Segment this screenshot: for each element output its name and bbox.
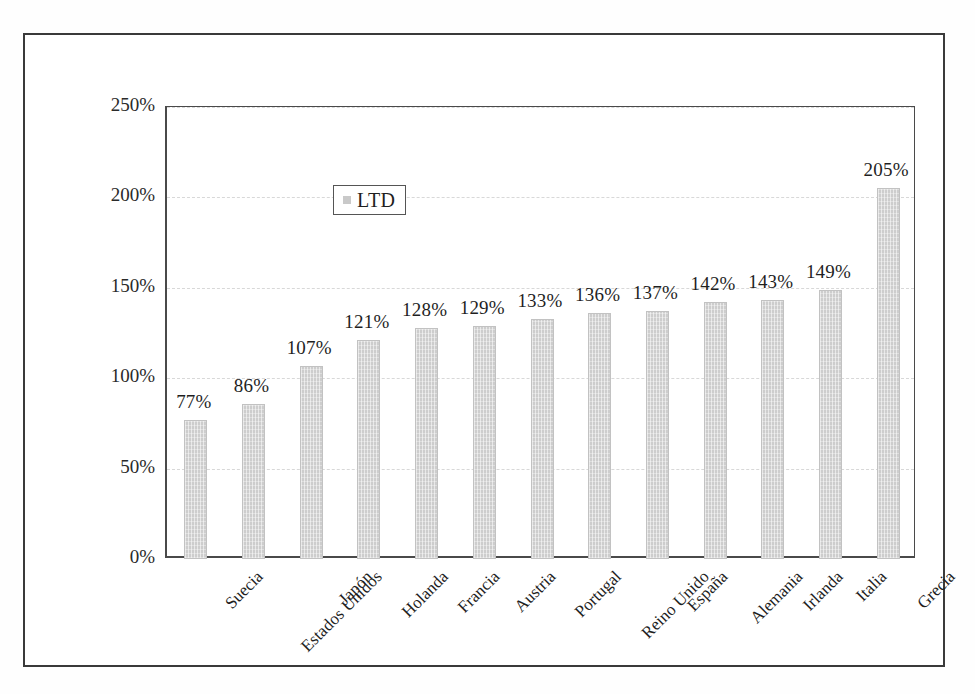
x-axis-category-label: Italia — [853, 567, 892, 606]
bar — [646, 311, 669, 559]
y-axis-tick-label: 200% — [37, 184, 155, 206]
x-axis-category-label: Portugal — [571, 567, 626, 622]
x-axis-category-label: Alemania — [746, 567, 807, 628]
bar — [184, 420, 207, 559]
gridline — [167, 197, 914, 198]
bar-value-label: 107% — [266, 337, 352, 359]
legend-label-ltd: LTD — [357, 189, 396, 212]
x-axis-category-label: Suecia — [221, 567, 267, 613]
bar — [473, 326, 496, 559]
bar — [819, 290, 842, 559]
y-axis-tick-label: 100% — [37, 365, 155, 387]
bar — [242, 404, 265, 559]
chart-legend[interactable]: LTD — [333, 185, 406, 215]
plot-area: LTD — [165, 106, 915, 558]
x-axis-category-label: Irlanda — [799, 567, 847, 615]
legend-swatch-ltd — [343, 196, 351, 204]
y-axis-tick-label: 0% — [37, 546, 155, 568]
bar — [704, 302, 727, 559]
bar-value-label: 149% — [785, 261, 871, 283]
bar — [357, 340, 380, 559]
gridline — [167, 107, 914, 108]
chart-page: 0%50%100%150%200%250% LTD 77%86%107%121%… — [0, 0, 975, 694]
bar — [300, 366, 323, 559]
x-axis-category-label: Grecia — [913, 567, 959, 613]
y-axis-tick-label: 250% — [37, 94, 155, 116]
bar — [588, 313, 611, 559]
y-axis-tick-label: 50% — [37, 456, 155, 478]
y-axis-tick-label: 150% — [37, 275, 155, 297]
x-axis-category-label: Austria — [511, 567, 561, 617]
x-axis-category-label: Francia — [454, 567, 504, 617]
figure-frame: 0%50%100%150%200%250% LTD 77%86%107%121%… — [23, 33, 945, 667]
bar — [877, 188, 900, 559]
bar-value-label: 86% — [209, 375, 295, 397]
x-axis-category-label: Holanda — [398, 567, 453, 622]
bar — [531, 319, 554, 559]
bar-value-label: 205% — [843, 159, 929, 181]
bar — [415, 328, 438, 559]
bar — [761, 300, 784, 559]
